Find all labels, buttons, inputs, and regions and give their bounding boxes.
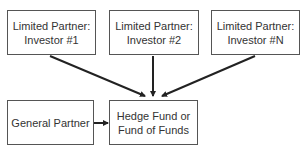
arrow-lpn-to-fund [162,56,255,96]
org-structure-diagram: Limited Partner: Investor #1 Limited Par… [0,0,303,154]
arrow-lp1-to-fund [50,56,145,96]
arrows-layer [0,0,303,154]
